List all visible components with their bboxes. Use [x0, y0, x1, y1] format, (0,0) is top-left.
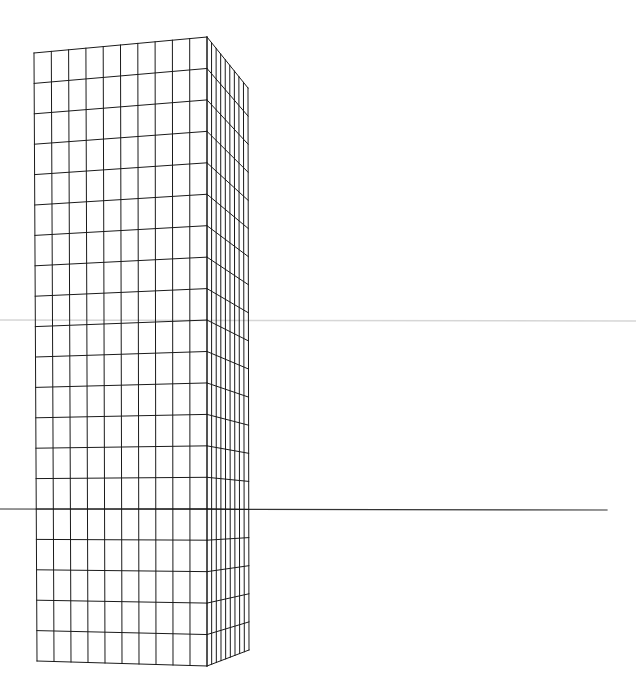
side-face-row-line	[207, 226, 248, 257]
side-face-row-line	[207, 289, 248, 313]
guide-line-segment	[0, 320, 636, 321]
side-face-row-line	[207, 650, 249, 666]
front-face-row-line	[36, 477, 207, 478]
side-face-row-line	[207, 68, 248, 116]
side-face-row-line	[207, 414, 249, 425]
drawing-canvas	[0, 0, 636, 700]
tower-front-face	[34, 37, 207, 666]
side-face-row-line	[207, 538, 249, 541]
side-face-row-line	[207, 446, 249, 453]
side-face-row-line	[207, 352, 249, 370]
side-face-row-line	[207, 163, 248, 201]
side-face-row-line	[207, 37, 248, 88]
front-face-row-line	[36, 539, 207, 540]
side-face-row-line	[207, 383, 249, 397]
side-face-row-line	[207, 320, 248, 341]
side-face-row-line	[207, 477, 249, 481]
side-face-row-line	[207, 622, 249, 635]
side-face-row-line	[207, 194, 248, 228]
guide-line	[0, 320, 636, 321]
side-face-row-line	[207, 594, 249, 603]
tower-side-face	[207, 37, 249, 666]
side-face-row-line	[207, 257, 248, 285]
side-face-row-line	[207, 566, 249, 572]
